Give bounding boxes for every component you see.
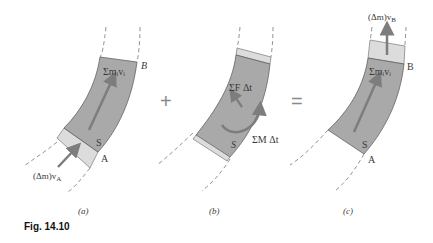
system-s-label: S [362,139,368,150]
plus-operator: + [160,90,172,112]
force-impulse-label: ΣF Δt [229,82,252,93]
inflow-momentum-label: (Δm)vA [33,171,61,183]
equals-operator: = [291,90,303,112]
system-s-label: S [96,137,102,148]
panel-a-sublabel: (a) [78,206,89,216]
panel-c-sublabel: (c) [343,206,353,216]
moment-impulse-label: ΣM Δt [252,134,279,145]
body-momentum-label: Σmᵢvᵢ [369,66,391,77]
body-momentum-label: Σmᵢvᵢ [103,66,125,77]
point-b-label: B [407,61,414,72]
panel-a: Σmᵢvᵢ B S A (Δm)vA (a) [24,27,147,216]
point-a-label: A [368,154,376,165]
point-a-label: A [101,153,109,164]
point-b-label: B [141,60,147,71]
outflow-momentum-label: (Δm)vB [368,12,396,24]
system-s-label: S [231,139,236,150]
panel-c: (Δm)vB Σmᵢvᵢ B S A (c) [290,12,414,216]
inflow-arrow [58,148,76,167]
panel-b: ΣF Δt ΣM Δt S (b) [157,27,279,216]
panel-b-sublabel: (b) [209,206,220,216]
figure-caption: Fig. 14.10 [24,221,70,232]
diagram-canvas: Σmᵢvᵢ B S A (Δm)vA (a) + ΣF Δt ΣM Δt S (… [0,0,433,243]
